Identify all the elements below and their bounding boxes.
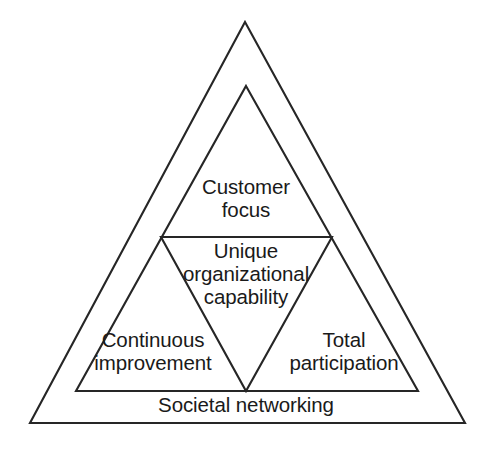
- nested-triangle-graphic: [0, 0, 487, 449]
- label-societal-networking: Societal networking: [134, 394, 358, 417]
- label-unique-organizational-capability: Unique organizational capability: [152, 240, 340, 309]
- label-customer-focus: Customer focus: [160, 176, 332, 222]
- label-total-participation: Total participation: [272, 329, 416, 375]
- diagram-canvas: Customer focus Unique organizational cap…: [0, 0, 487, 449]
- label-continuous-improvement: Continuous improvement: [78, 329, 228, 375]
